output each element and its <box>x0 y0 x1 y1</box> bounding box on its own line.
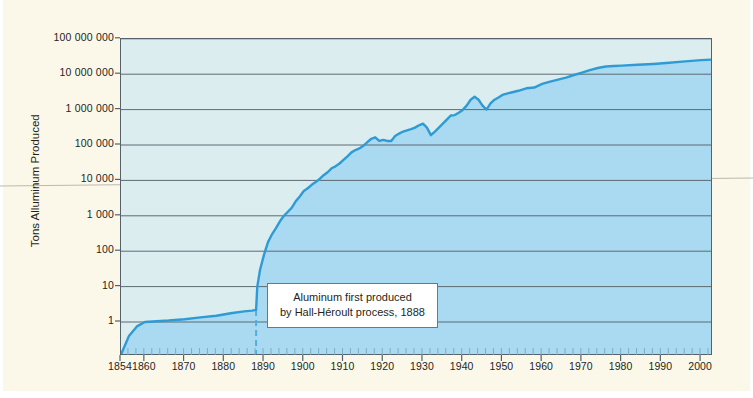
x-tick-label: 1854 <box>108 361 132 372</box>
x-tick-label: 1970 <box>569 361 593 372</box>
annotation-line-2: by Hall-Héroult process, 1888 <box>280 305 425 320</box>
x-tick-label: 1890 <box>251 361 275 372</box>
x-tick-label: 1960 <box>529 361 553 372</box>
y-axis-tick-labels: 1101001 00010 000100 0001 000 00010 000 … <box>0 0 114 398</box>
x-tick-label: 1860 <box>132 361 156 372</box>
y-tick-label: 1 <box>108 315 114 326</box>
chart-figure: 1101001 00010 000100 0001 000 00010 000 … <box>0 0 753 398</box>
annotation-line-1: Aluminum first produced <box>280 290 425 305</box>
x-tick-label: 1980 <box>609 361 633 372</box>
y-axis-title: Tons Alluminum Produced <box>30 91 42 271</box>
x-tick-label: 1870 <box>172 361 196 372</box>
annotation-callout: Aluminum first produced by Hall-Héroult … <box>267 283 438 328</box>
x-tick-label: 1930 <box>410 361 434 372</box>
y-tick-label: 1 000 <box>87 209 114 220</box>
y-tick-label: 100 <box>96 244 114 255</box>
x-tick-label: 1920 <box>370 361 394 372</box>
y-tick-label: 100 000 <box>75 138 114 149</box>
y-tick-label: 10 000 <box>81 173 114 184</box>
y-tick-label: 10 <box>102 280 114 291</box>
y-tick-label: 1 000 000 <box>65 103 114 114</box>
x-tick-label: 1940 <box>450 361 474 372</box>
x-tick-label: 1900 <box>291 361 315 372</box>
y-tick-label: 100 000 000 <box>53 32 114 43</box>
x-tick-label: 1910 <box>331 361 355 372</box>
x-tick-label: 1880 <box>211 361 235 372</box>
x-tick-label: 2000 <box>688 361 712 372</box>
x-tick-label: 1990 <box>648 361 672 372</box>
x-tick-label: 1950 <box>490 361 514 372</box>
y-tick-label: 10 000 000 <box>59 67 114 78</box>
